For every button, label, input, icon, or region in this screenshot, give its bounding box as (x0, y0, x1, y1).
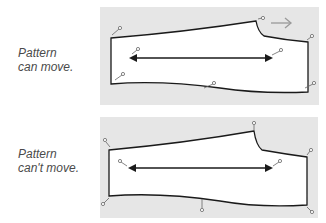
panel-movable (100, 7, 319, 105)
panel-not-movable (100, 117, 318, 218)
pattern-diagram (0, 0, 326, 223)
